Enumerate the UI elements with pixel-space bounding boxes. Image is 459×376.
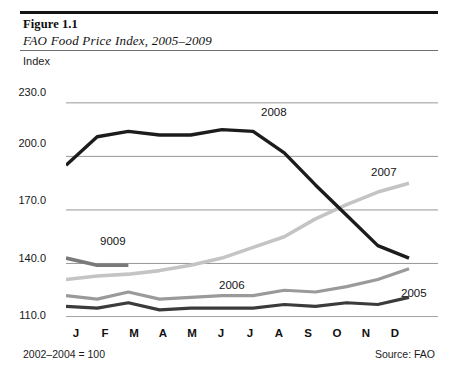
x-tick-label-feb: F [95, 327, 115, 339]
x-tick-label-may: M [182, 327, 202, 339]
series-line-2005 [66, 297, 409, 309]
y-tick-label-170: 170.0 [0, 194, 46, 206]
footnote-base-period: 2002–2004 = 100 [23, 348, 105, 360]
series-annotation-2007: 2007 [371, 166, 397, 178]
y-tick-label-140: 140.0 [0, 252, 46, 264]
x-tick-label-nov: N [356, 327, 376, 339]
header-divider-rule [20, 50, 438, 51]
x-tick-label-jan: J [66, 327, 86, 339]
series-annotation-2006: 2006 [219, 279, 245, 291]
series-annotation-2008: 2008 [261, 106, 287, 118]
x-tick-label-apr: A [153, 327, 173, 339]
footnote-source: Source: FAO [375, 348, 435, 360]
series-annotation-2009: 9009 [100, 235, 126, 247]
y-tick-label-200: 200.0 [0, 137, 46, 149]
series-annotation-2005: 2005 [401, 287, 427, 299]
y-tick-label-230: 230.0 [0, 86, 46, 98]
plot-area [66, 85, 438, 317]
gridlines [66, 103, 438, 317]
x-tick-label-jul: J [240, 327, 260, 339]
x-tick-label-oct: O [327, 327, 347, 339]
figure-subtitle: FAO Food Price Index, 2005–2009 [23, 33, 212, 49]
x-tick-label-dec: D [385, 327, 405, 339]
x-tick-label-aug: A [269, 327, 289, 339]
line-chart-svg [66, 85, 438, 317]
x-tick-label-sep: S [298, 327, 318, 339]
series-line-9009 [66, 258, 128, 265]
top-rule [20, 11, 438, 14]
x-tick-label-mar: M [124, 327, 144, 339]
figure-number: Figure 1.1 [23, 17, 78, 32]
figure-container: Figure 1.1 FAO Food Price Index, 2005–20… [0, 0, 459, 376]
y-axis-unit-label: Index [23, 55, 50, 67]
y-tick-label-110: 110.0 [0, 309, 46, 321]
x-tick-label-jun: J [211, 327, 231, 339]
